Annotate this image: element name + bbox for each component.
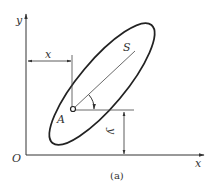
origin-label: O <box>12 152 21 165</box>
x-dimension-label: x <box>45 48 52 61</box>
direction-s-label: S <box>123 41 131 54</box>
point-a-marker <box>71 107 76 112</box>
x-axis-label: x <box>195 157 202 170</box>
ellipse-outline <box>35 10 169 158</box>
figure-caption: (a) <box>110 170 124 181</box>
ellipse-diagram: y O x A S x y (a) <box>0 0 218 187</box>
angle-arc <box>89 95 94 109</box>
y-axis-label: y <box>15 14 23 27</box>
direction-line <box>73 51 135 109</box>
y-dimension-label: y <box>105 127 118 135</box>
point-a-label: A <box>56 113 65 126</box>
